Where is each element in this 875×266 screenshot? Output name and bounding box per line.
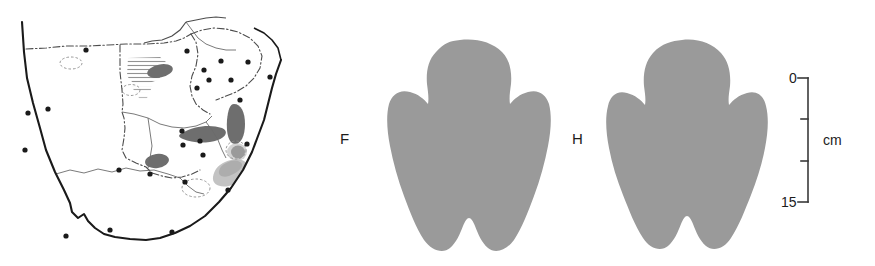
locality-dot xyxy=(184,48,189,53)
scale-unit-label: cm xyxy=(823,133,842,147)
figure-root: F H 0 15 cm xyxy=(0,0,875,266)
locality-dot xyxy=(180,142,185,147)
locality-dot xyxy=(179,128,184,133)
locality-dot xyxy=(201,67,206,72)
front-foot-label: F xyxy=(340,131,349,146)
locality-dot xyxy=(206,77,211,82)
locality-dot xyxy=(182,179,187,184)
locality-dot xyxy=(147,171,152,176)
locality-dot xyxy=(200,152,205,157)
locality-dot xyxy=(225,187,230,192)
hind-foot-spoor xyxy=(606,40,768,249)
locality-dot xyxy=(116,167,121,172)
scale-top-value: 0 xyxy=(789,71,797,85)
locality-dot xyxy=(194,85,199,90)
locality-dot xyxy=(22,147,27,152)
distribution-map-svg xyxy=(0,0,300,266)
locality-dot xyxy=(237,97,242,102)
locality-dot xyxy=(244,141,249,146)
range-blob-swaziland-light xyxy=(227,143,247,161)
front-foot-spoor xyxy=(387,40,551,252)
range-blob-kruger xyxy=(227,104,245,144)
locality-dot xyxy=(228,77,233,82)
locality-dot xyxy=(267,74,272,79)
spoor-svg xyxy=(300,0,875,266)
hind-foot-label: H xyxy=(572,131,583,146)
locality-dot xyxy=(63,233,68,238)
spoor-panel xyxy=(300,0,875,266)
locality-dot xyxy=(107,227,112,232)
locality-dot xyxy=(169,229,174,234)
locality-dot xyxy=(197,138,202,143)
locality-dot xyxy=(25,110,30,115)
locality-dot xyxy=(45,106,50,111)
locality-dot xyxy=(218,58,223,63)
locality-dot xyxy=(83,47,88,52)
scale-bottom-value: 15 xyxy=(781,195,797,209)
scale-bar xyxy=(798,78,808,202)
distribution-map-panel xyxy=(0,0,300,266)
locality-dot xyxy=(245,59,250,64)
